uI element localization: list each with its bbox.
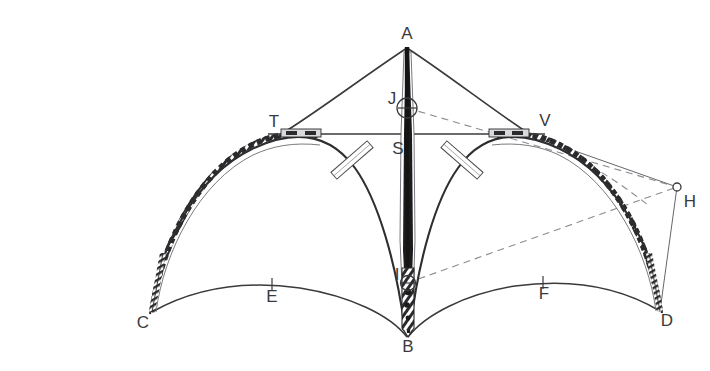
diagram-canvas: A J T V S H I E F C D B (0, 0, 710, 371)
label-H: H (684, 192, 696, 211)
fitting-left-T-pin (286, 131, 297, 135)
mast-group (400, 47, 415, 337)
anchor-point-H (673, 183, 681, 191)
label-A: A (401, 24, 413, 43)
label-D: D (661, 311, 673, 330)
construction-diagram: A J T V S H I E F C D B (0, 0, 710, 371)
label-V: V (539, 111, 551, 130)
canvas-background (0, 0, 710, 371)
label-I: I (395, 265, 400, 284)
label-C: C (137, 313, 149, 332)
fitting-right-V-pin2 (512, 131, 523, 135)
label-T: T (269, 112, 279, 131)
fitting-right-V-pin (494, 131, 505, 135)
label-S: S (392, 139, 403, 158)
label-F: F (539, 284, 549, 303)
mast-foot-detail (402, 268, 414, 337)
fitting-left-T-pin2 (305, 131, 316, 135)
label-E: E (266, 287, 277, 306)
label-J: J (388, 89, 397, 108)
mast-foot-node-b (404, 302, 410, 308)
mast-foot-node-c (406, 316, 411, 321)
label-B: B (402, 337, 413, 356)
